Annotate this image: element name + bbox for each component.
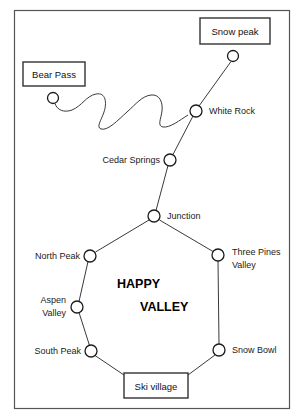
node-label-south-peak: South Peak — [34, 346, 81, 356]
node-label-white-rock: White Rock — [209, 106, 256, 116]
node-label-aspen-valley-line1: Aspen — [40, 295, 66, 305]
node-aspen-valley[interactable] — [71, 301, 83, 313]
node-label-junction: Junction — [167, 211, 201, 221]
node-three-pines-valley[interactable] — [212, 249, 224, 261]
region-title-line1: HAPPY — [117, 277, 161, 291]
terminus-box-ski-village[interactable]: Ski village — [124, 373, 188, 398]
node-snow-bowl[interactable] — [213, 344, 225, 356]
terminus-label-ski-village: Ski village — [135, 381, 178, 392]
terminus-box-bear-pass[interactable]: Bear Pass — [23, 62, 85, 86]
node-snow-peak[interactable] — [228, 51, 239, 62]
node-cedar-springs[interactable] — [164, 154, 176, 166]
node-south-peak[interactable] — [85, 345, 97, 357]
terminus-box-snow-peak[interactable]: Snow peak — [200, 18, 270, 44]
node-label-aspen-valley-line2: Valley — [42, 308, 66, 318]
node-white-rock[interactable] — [190, 105, 202, 117]
trail-map-diagram: Snow peak Bear Pass Ski village HAPPY VA… — [0, 0, 301, 420]
terminus-label-snow-peak: Snow peak — [211, 26, 258, 37]
node-label-north-peak: North Peak — [35, 251, 81, 261]
terminus-label-bear-pass: Bear Pass — [32, 69, 76, 80]
node-label-snow-bowl: Snow Bowl — [232, 345, 277, 355]
region-title-line2: VALLEY — [140, 300, 189, 314]
node-north-peak[interactable] — [84, 250, 96, 262]
node-label-three-pines-valley-line2: Valley — [232, 260, 256, 270]
node-label-cedar-springs: Cedar Springs — [102, 155, 160, 165]
node-junction[interactable] — [148, 210, 160, 222]
node-label-three-pines-valley-line1: Three Pines — [232, 247, 281, 257]
node-bear-pass[interactable] — [48, 93, 59, 104]
